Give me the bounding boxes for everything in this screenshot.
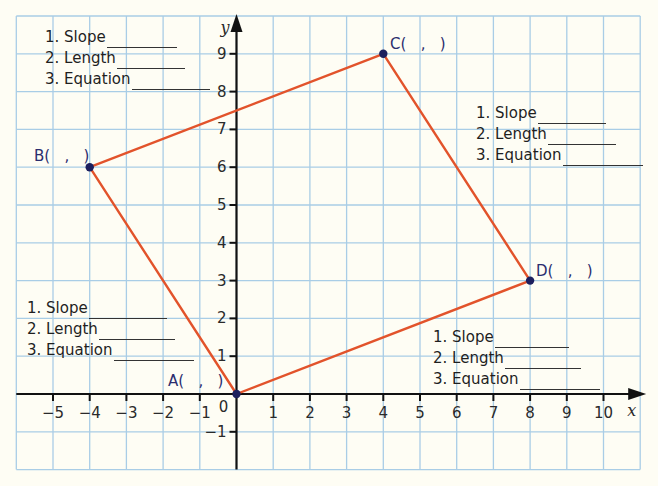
slope-answer-blank[interactable] [107,32,177,48]
x-tick-label: 3 [342,404,352,422]
equation-answer-blank[interactable] [520,374,600,390]
x-tick-label: 6 [452,404,462,422]
length-answer-blank[interactable] [117,53,185,69]
equation-question: 3. Equation [476,145,643,166]
slope-question: 1. Slope [45,27,210,48]
equation-label: 3. Equation [476,145,562,166]
length-question: 2. Length [45,48,210,69]
x-tick-label: 7 [489,404,499,422]
questions-side-ad: 1. Slope 2. Length 3. Equation [433,327,600,390]
equation-answer-blank[interactable] [114,345,194,361]
equation-label: 3. Equation [45,69,131,90]
length-label: 2. Length [433,348,504,369]
equation-answer-blank[interactable] [132,74,210,90]
questions-side-ab: 1. Slope 2. Length 3. Equation [27,298,194,361]
point-a [232,390,240,398]
length-question: 2. Length [27,319,194,340]
x-tick-label: 4 [379,404,389,422]
length-question: 2. Length [476,124,643,145]
equation-question: 3. Equation [433,369,600,390]
slope-question: 1. Slope [476,103,643,124]
length-label: 2. Length [27,319,98,340]
x-tick-label: −2 [152,404,174,422]
equation-question: 3. Equation [27,340,194,361]
slope-answer-blank[interactable] [538,108,606,124]
y-tick-label: 6 [217,158,227,176]
point-c [379,50,387,58]
length-answer-blank[interactable] [548,129,616,145]
point-d [526,276,534,284]
y-axis-label: y [220,18,231,37]
slope-question: 1. Slope [433,327,600,348]
slope-answer-blank[interactable] [495,332,569,348]
y-tick-label: −1 [204,423,226,441]
point-label-a: A( , ) [168,372,223,390]
y-tick-label: 9 [217,45,227,63]
x-axis-label: x [627,401,636,420]
x-tick-label: −1 [189,404,211,422]
y-tick-label: 2 [217,309,227,327]
origin-label: 0 [219,398,229,416]
length-label: 2. Length [476,124,547,145]
x-tick-label: 9 [562,404,572,422]
point-label-b: B( , ) [34,147,89,165]
y-tick-label: 7 [217,120,227,138]
y-tick-label: 4 [217,234,227,252]
equation-answer-blank[interactable] [563,150,643,166]
y-tick-label: 5 [217,196,227,214]
x-tick-label: −3 [115,404,137,422]
slope-question: 1. Slope [27,298,194,319]
length-answer-blank[interactable] [99,324,175,340]
x-tick-label: 1 [268,404,278,422]
slope-label: 1. Slope [476,103,537,124]
y-axis-arrow-icon [231,14,243,32]
questions-side-bc: 1. Slope 2. Length 3. Equation [45,27,210,90]
slope-label: 1. Slope [27,298,88,319]
length-answer-blank[interactable] [505,353,581,369]
x-tick-label: 5 [415,404,425,422]
slope-label: 1. Slope [433,327,494,348]
y-tick-label: 8 [217,83,227,101]
length-label: 2. Length [45,48,116,69]
coordinate-plane-worksheet: xy −5−4−3−2−112345678910−11234567890 B( … [0,0,658,486]
equation-question: 3. Equation [45,69,210,90]
y-tick-label: 1 [217,347,227,365]
point-label-d: D( , ) [536,262,593,280]
questions-side-cd: 1. Slope 2. Length 3. Equation [476,103,643,166]
equation-label: 3. Equation [27,340,113,361]
point-label-c: C( , ) [390,35,446,53]
slope-label: 1. Slope [45,27,106,48]
y-tick-label: 3 [217,272,227,290]
x-tick-label: 8 [525,404,535,422]
x-tick-label: 2 [305,404,315,422]
x-axis-arrow-icon [628,388,646,400]
slope-answer-blank[interactable] [89,303,167,319]
x-tick-label: −5 [42,404,64,422]
x-tick-label: −4 [79,404,101,422]
equation-label: 3. Equation [433,369,519,390]
length-question: 2. Length [433,348,600,369]
x-tick-label: 10 [594,404,613,422]
